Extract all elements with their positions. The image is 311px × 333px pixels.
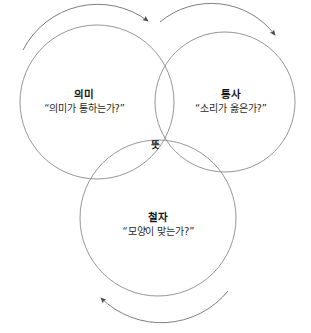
- venn-diagram-canvas: [0, 0, 311, 333]
- label-meaning-question: “의미가 통하는가?”: [22, 103, 147, 116]
- label-spelling-question: “모양이 맞는가?”: [96, 226, 221, 239]
- label-syntax-title: 통사: [172, 88, 290, 101]
- label-meaning: 의미 “의미가 통하는가?”: [22, 88, 147, 116]
- label-syntax-question: “소리가 옳은가?”: [172, 103, 290, 116]
- venn-diagram-figure: 의미 “의미가 통하는가?” 통사 “소리가 옳은가?” 철자 “모양이 맞는가…: [0, 0, 311, 333]
- arrow-top-right: [160, 3, 275, 35]
- label-syntax: 통사 “소리가 옳은가?”: [172, 88, 290, 116]
- label-meaning-title: 의미: [22, 88, 147, 101]
- label-intersection: 뜻: [135, 139, 175, 151]
- label-spelling: 철자 “모양이 맞는가?”: [96, 211, 221, 239]
- label-intersection-text: 뜻: [135, 139, 175, 151]
- label-spelling-title: 철자: [96, 211, 221, 224]
- arrow-top-left: [23, 4, 148, 50]
